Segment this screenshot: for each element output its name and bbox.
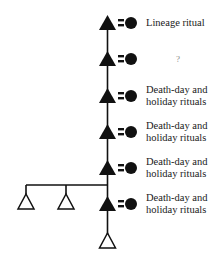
- label-line: ?: [176, 53, 180, 65]
- marriage-equals-icon-bar: [118, 24, 124, 26]
- male-filled-triangle-icon: [99, 88, 116, 103]
- female-filled-circle-icon: [125, 53, 137, 65]
- generation-5-label: Death-day and holiday rituals: [146, 156, 208, 180]
- male-filled-triangle-icon: [99, 51, 116, 66]
- male-filled-triangle-icon: [99, 15, 116, 30]
- sibling-open-triangle-icon: [18, 194, 34, 209]
- marriage-equals-icon-bar: [118, 205, 124, 207]
- generation-2-label: ?: [176, 53, 180, 65]
- generation-2-couple: [99, 51, 137, 66]
- female-filled-circle-icon: [125, 90, 137, 102]
- label-line: Death-day and: [146, 120, 208, 132]
- generation-1-label: Lineage ritual: [146, 17, 205, 29]
- label-line: Death-day and: [146, 192, 208, 204]
- marriage-equals-icon: [118, 164, 124, 166]
- female-filled-circle-icon: [125, 17, 137, 29]
- marriage-equals-icon-bar: [118, 97, 124, 99]
- generation-3-label: Death-day and holiday rituals: [146, 84, 208, 108]
- marriage-equals-icon: [118, 19, 124, 21]
- label-line: Death-day and: [146, 84, 208, 96]
- label-line: holiday rituals: [146, 168, 208, 180]
- generation-5-couple: [99, 160, 137, 175]
- male-filled-triangle-icon: [99, 124, 116, 139]
- label-line: holiday rituals: [146, 132, 208, 144]
- marriage-equals-icon: [118, 200, 124, 202]
- generation-3-couple: [99, 88, 137, 103]
- generation-6-couple: [99, 196, 137, 211]
- label-line: holiday rituals: [146, 204, 208, 216]
- generation-1-couple: [99, 15, 137, 30]
- marriage-equals-icon: [118, 55, 124, 57]
- marriage-equals-icon: [118, 128, 124, 130]
- female-filled-circle-icon: [125, 126, 137, 138]
- generation-6-label: Death-day and holiday rituals: [146, 192, 208, 216]
- generation-4-couple: [99, 124, 137, 139]
- marriage-equals-icon-bar: [118, 169, 124, 171]
- generation-4-label: Death-day and holiday rituals: [146, 120, 208, 144]
- male-filled-triangle-icon: [99, 196, 116, 211]
- male-filled-triangle-icon: [99, 160, 116, 175]
- sibling-open-triangle-icon: [58, 194, 74, 209]
- marriage-equals-icon: [118, 92, 124, 94]
- marriage-equals-icon-bar: [118, 133, 124, 135]
- label-line: holiday rituals: [146, 96, 208, 108]
- descendant-open-triangle-icon: [100, 233, 116, 248]
- label-line: Lineage ritual: [146, 17, 205, 29]
- female-filled-circle-icon: [125, 162, 137, 174]
- marriage-equals-icon-bar: [118, 60, 124, 62]
- female-filled-circle-icon: [125, 198, 137, 210]
- label-line: Death-day and: [146, 156, 208, 168]
